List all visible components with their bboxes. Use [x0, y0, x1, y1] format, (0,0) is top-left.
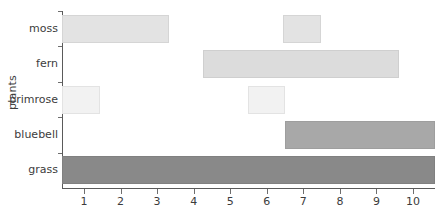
- x-axis-tick: [230, 189, 231, 194]
- x-axis-tick: [413, 189, 414, 194]
- y-axis-tick: [58, 46, 62, 47]
- x-axis-tick: [376, 189, 377, 194]
- bar-primrose-segment-1: [62, 86, 100, 114]
- x-axis-tick-label: 6: [252, 195, 282, 207]
- bar-fern: [203, 50, 399, 78]
- x-axis-tick-label: 5: [215, 195, 245, 207]
- y-axis-tick-label-fern: fern: [2, 58, 58, 70]
- x-axis-tick-label: 4: [179, 195, 209, 207]
- y-axis-tick-label-grass: grass: [2, 164, 58, 176]
- x-axis-tick: [340, 189, 341, 194]
- x-axis-tick: [121, 189, 122, 194]
- x-axis-tick: [157, 189, 158, 194]
- bar-chart: plants grassbluebellprimrosefernmoss 123…: [0, 0, 435, 207]
- x-axis-tick: [267, 189, 268, 194]
- x-axis-tick-label: 3: [142, 195, 172, 207]
- plot-area: 12345678910: [62, 11, 435, 188]
- bar-moss-segment-1: [62, 15, 169, 43]
- y-axis-tick-labels: grassbluebellprimrosefernmoss: [0, 0, 58, 207]
- x-axis-tick-label: 7: [288, 195, 318, 207]
- x-axis-tick-label: 10: [398, 195, 428, 207]
- y-axis-tick: [58, 82, 62, 83]
- y-axis-tick-label-primrose: primrose: [2, 94, 58, 106]
- x-axis-tick: [194, 189, 195, 194]
- bar-grass: [62, 156, 435, 184]
- bar-bluebell: [285, 121, 435, 149]
- x-axis-tick-label: 1: [69, 195, 99, 207]
- y-axis-tick: [58, 11, 62, 12]
- x-axis-tick-label: 9: [361, 195, 391, 207]
- x-axis-tick: [303, 189, 304, 194]
- bar-moss-segment-2: [283, 15, 321, 43]
- x-axis-line: [62, 188, 435, 189]
- bar-primrose-segment-2: [248, 86, 285, 114]
- y-axis-tick: [58, 117, 62, 118]
- y-axis-tick-label-bluebell: bluebell: [2, 129, 58, 141]
- y-axis-tick-label-moss: moss: [2, 23, 58, 35]
- y-axis-tick: [58, 153, 62, 154]
- x-axis-tick: [84, 189, 85, 194]
- x-axis-tick-label: 2: [106, 195, 136, 207]
- x-axis-tick-label: 8: [325, 195, 355, 207]
